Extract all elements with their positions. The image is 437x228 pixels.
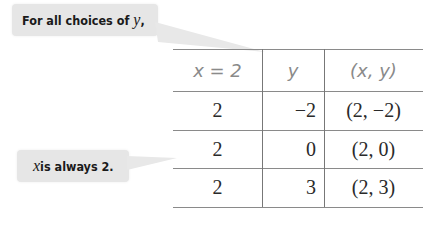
- header-x-text: x = 2: [193, 60, 242, 81]
- header-y-text: y: [288, 60, 299, 81]
- callout-text: For all choices of: [22, 13, 129, 28]
- table-cell: (2, −2): [324, 91, 423, 130]
- header-xy-text: (x, y): [350, 60, 397, 81]
- table-rule: [173, 207, 423, 208]
- callout-variable: x: [33, 157, 40, 175]
- callout-x-is-always-2: x is always 2.: [17, 150, 129, 182]
- header-y: y: [262, 49, 324, 91]
- table-cell: −2: [262, 91, 324, 130]
- header-xy: (x, y): [324, 49, 423, 91]
- table-cell: (2, 3): [324, 168, 423, 207]
- callout-all-choices-of-y: For all choices of y,: [12, 4, 158, 36]
- table-cell: 0: [262, 130, 324, 168]
- table-cell: 3: [262, 168, 324, 207]
- table-cell: 2: [173, 168, 262, 207]
- xy-table: x = 2 y (x, y) 2 −2 (2, −2) 2 0 (2, 0) 2…: [173, 49, 423, 209]
- table-cell: 2: [173, 130, 262, 168]
- table-cell: (2, 0): [324, 130, 423, 168]
- callout-variable: y: [133, 11, 140, 29]
- callout-text: is always 2.: [40, 159, 114, 174]
- table-cell: 2: [173, 91, 262, 130]
- header-x: x = 2: [173, 49, 262, 91]
- callout-punct: ,: [140, 13, 144, 28]
